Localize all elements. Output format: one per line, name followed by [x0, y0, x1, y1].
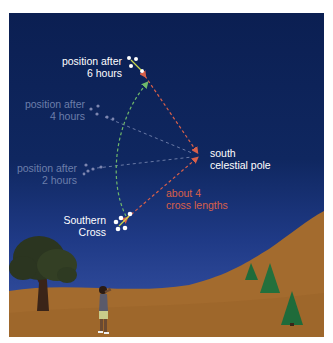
diagram-panel: position after 6 hours position after 4 … — [9, 13, 324, 337]
label-southern-cross: Southern Cross — [49, 214, 106, 238]
label-south-celestial-pole: south celestial pole — [210, 147, 271, 171]
arrow-6h-pole — [145, 76, 197, 152]
label-position-2h: position after 2 hours — [9, 162, 77, 186]
line-2h-to-pole — [97, 157, 192, 168]
cross-2h — [83, 163, 103, 175]
cross-4h — [89, 104, 114, 120]
cross-6h — [127, 56, 144, 73]
southern-cross — [114, 212, 133, 232]
rotation-arc — [116, 83, 147, 216]
line-4h-to-pole — [105, 117, 192, 153]
label-position-6h: position after 6 hours — [54, 55, 122, 79]
label-distance: about 4 cross lengths — [166, 187, 228, 211]
label-position-4h: position after 4 hours — [17, 98, 85, 122]
